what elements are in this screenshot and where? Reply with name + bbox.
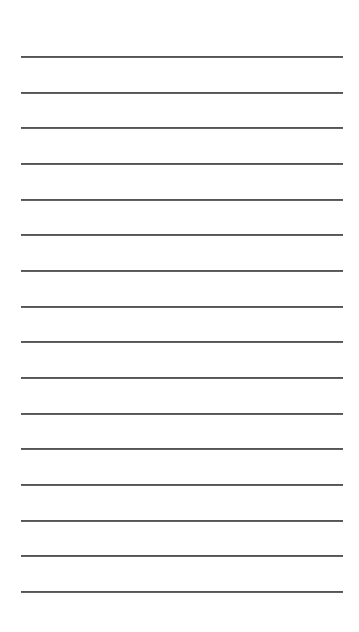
ruled-line [21,92,343,94]
ruled-line [21,484,343,486]
ruled-line [21,199,343,201]
ruled-line [21,520,343,522]
ruled-line [21,448,343,450]
ruled-line [21,413,343,415]
lined-paper [0,0,359,632]
ruled-line [21,127,343,129]
ruled-line [21,270,343,272]
ruled-line [21,56,343,58]
ruled-line [21,306,343,308]
ruled-line [21,377,343,379]
ruled-line [21,163,343,165]
ruled-line [21,341,343,343]
ruled-line [21,555,343,557]
ruled-line [21,234,343,236]
ruled-line [21,591,343,593]
